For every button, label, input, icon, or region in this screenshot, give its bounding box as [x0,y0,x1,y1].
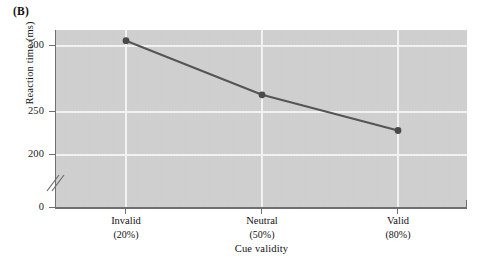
x-category-name-valid: Valid [387,215,409,226]
y-tick-label-200: 200 [0,148,44,159]
plot-area [56,30,467,208]
y-tick-200 [49,154,55,155]
y-axis-break-icon [45,172,67,196]
y-tick-0 [49,207,55,208]
x-tick-label-invalid: Invalid (20%) [66,214,186,242]
x-axis-right-cap [466,200,467,208]
x-category-pct-invalid: (20%) [66,228,186,242]
y-axis-title: Reaction time (ms) [24,21,35,104]
y-tick-label-0: 0 [0,201,44,212]
axis-break-svg [45,172,67,196]
y-axis-title-wrapper: Reaction time (ms) [19,0,33,133]
figure-panel-b: (B) 300 250 200 0 Reaction time (ms) Inv… [0,0,481,269]
gridline-x-invalid [125,30,127,208]
x-category-pct-valid: (80%) [338,228,458,242]
x-axis-title: Cue validity [56,243,467,254]
x-tick-label-neutral: Neutral (50%) [202,214,322,242]
y-tick-300 [49,45,55,46]
y-tick-250 [49,111,55,112]
gridline-x-valid [397,30,399,208]
x-tick-neutral [261,207,262,214]
x-category-name-invalid: Invalid [111,215,141,226]
x-category-pct-neutral: (50%) [202,228,322,242]
x-tick-valid [397,207,398,214]
x-tick-invalid [125,207,126,214]
gridline-x-neutral [261,30,263,208]
x-tick-label-valid: Valid (80%) [338,214,458,242]
x-category-name-neutral: Neutral [246,215,278,226]
